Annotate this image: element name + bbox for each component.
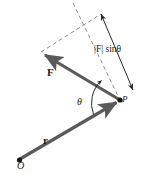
force-vector-F bbox=[45, 55, 120, 100]
origin-point-label: O bbox=[17, 161, 24, 171]
position-vector-label: r bbox=[43, 135, 48, 146]
application-point-label: P bbox=[122, 95, 128, 104]
force-vector-label: F bbox=[47, 67, 54, 78]
position-vector-r bbox=[20, 103, 117, 160]
projection-length-label: |F| sinθ bbox=[94, 45, 121, 55]
theta-angle-label: θ bbox=[77, 97, 82, 107]
force-tip-dashed-line bbox=[41, 14, 101, 52]
diagram-canvas bbox=[0, 0, 149, 178]
torque-diagram-figure: F r O P θ |F| sinθ bbox=[0, 0, 149, 178]
